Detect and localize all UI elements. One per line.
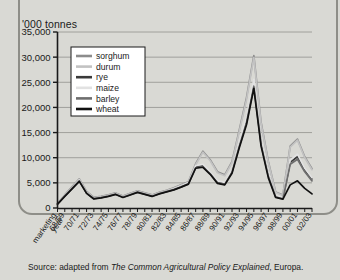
source-prefix: Source: adapted from (28, 262, 111, 272)
y-tick-label: 30,000 (21, 52, 50, 63)
chart-figure: '000 tonnes 05,00010,00015,00020,00025,0… (0, 0, 340, 280)
y-tick-label: 35,000 (21, 26, 50, 37)
plot-area: 05,00010,00015,00020,00025,00030,00035,0… (0, 0, 340, 280)
chart-legend: sorghumdurumryemaizebarleywheat (71, 47, 145, 116)
legend-label-wheat: wheat (95, 104, 120, 114)
y-tick-label: 5,000 (27, 177, 51, 188)
legend-label-barley: barley (96, 94, 120, 104)
y-tick-label: 25,000 (21, 77, 50, 88)
x-tick-label: 02/03 (295, 211, 314, 233)
legend-label-maize: maize (96, 83, 119, 93)
x-axis-labels-group: 68/6970/7172/7374/7576/7778/7980/8182/83… (31, 211, 314, 250)
source-title: The Common Agricultural Policy Explained (111, 262, 269, 272)
y-tick-label: 15,000 (21, 127, 50, 138)
legend-label-rye: rye (96, 72, 108, 82)
y-tick-label: 20,000 (21, 102, 50, 113)
source-suffix: , Europa. (269, 262, 303, 272)
y-tick-label: 10,000 (21, 152, 50, 163)
y-axis-ticks-group: 05,00010,00015,00020,00025,00030,00035,0… (21, 26, 57, 213)
legend-label-durum: durum (96, 62, 120, 72)
line-chart-svg: 05,00010,00015,00020,00025,00030,00035,0… (0, 0, 340, 280)
legend-label-sorghum: sorghum (96, 51, 129, 61)
source-caption: Source: adapted from The Common Agricult… (28, 262, 303, 272)
